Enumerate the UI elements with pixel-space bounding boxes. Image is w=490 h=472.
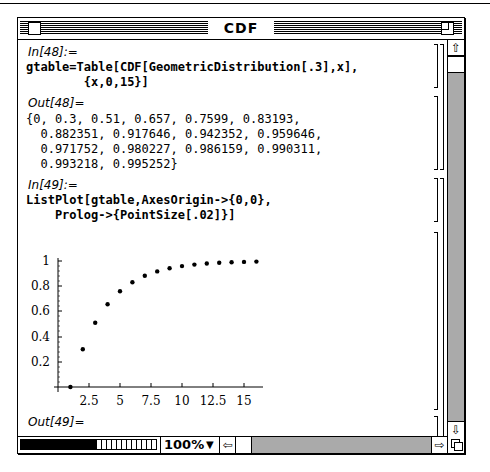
data-point	[93, 321, 97, 325]
input-label-48: In[48]:=	[28, 45, 78, 59]
y-tick-label: 0.8	[31, 279, 50, 293]
vertical-scroll-track[interactable]	[448, 56, 464, 421]
zoom-level[interactable]: 100%	[160, 437, 204, 453]
input-cell-48-line1[interactable]: gtable=Table[CDF[GeometricDistribution[.…	[26, 60, 358, 75]
output-cell-48-line4: 0.993218, 0.995252}	[26, 157, 178, 172]
input-cell-49-line2[interactable]: Prolog->{PointSize[.02]}]	[26, 208, 236, 223]
horizontal-scroll-track[interactable]	[252, 437, 431, 453]
magnification-fill	[21, 440, 96, 449]
data-point	[242, 260, 246, 264]
data-point	[180, 264, 184, 268]
data-point	[167, 266, 171, 270]
group-bracket-49[interactable]	[440, 178, 444, 437]
y-tick-label: 0.6	[31, 304, 50, 318]
magnification-slider[interactable]	[20, 439, 157, 450]
data-point	[68, 385, 72, 389]
data-point	[254, 259, 258, 263]
output-cell-48-line1: {0, 0.3, 0.51, 0.657, 0.7599, 0.83193,	[26, 112, 301, 127]
x-tick-label: 5	[116, 394, 124, 408]
data-points	[68, 259, 258, 389]
cell-bracket-graphics[interactable]	[434, 232, 438, 410]
scroll-right-arrow-icon[interactable]: ⇨	[431, 437, 447, 453]
cell-bracket-in48[interactable]	[434, 44, 438, 88]
output-cell-48-line3: 0.971752, 0.980227, 0.986159, 0.990311,	[26, 142, 322, 157]
input-cell-49-line1[interactable]: ListPlot[gtable,AxesOrigin->{0,0},	[26, 193, 272, 208]
status-bar: 100% ▼ ⇦ ⇨	[18, 436, 464, 453]
title-bar[interactable]: CDF	[18, 18, 464, 40]
x-tick-label: 7.5	[141, 394, 160, 408]
input-cell-48-line2[interactable]: {x,0,15}]	[26, 75, 149, 90]
output-label-49: Out[49]=	[28, 415, 84, 429]
vertical-scrollbar[interactable]: ⇧ ⇩	[447, 40, 464, 437]
window-title: CDF	[218, 19, 264, 37]
data-point	[118, 289, 122, 293]
title-stripes-left	[20, 21, 208, 34]
notebook-content[interactable]: In[48]:= gtable=Table[CDF[GeometricDistr…	[18, 40, 447, 437]
data-point	[192, 262, 196, 266]
close-box-icon[interactable]	[28, 22, 41, 35]
zoom-dropdown-icon[interactable]: ▼	[206, 437, 214, 453]
data-point	[155, 269, 159, 273]
data-point	[229, 260, 233, 264]
output-label-48: Out[48]=	[28, 96, 84, 110]
horizontal-scroll-thumb[interactable]	[236, 437, 252, 453]
title-stripes-right	[274, 21, 462, 34]
screen-top-rule	[0, 3, 490, 4]
data-point	[130, 280, 134, 284]
cell-bracket-out49[interactable]	[434, 416, 438, 437]
x-tick-label: 10	[174, 394, 189, 408]
input-label-49: In[49]:=	[28, 178, 78, 192]
data-point	[143, 274, 147, 278]
zoom-box-icon[interactable]	[441, 22, 454, 35]
horizontal-scrollbar[interactable]: ⇦ ⇨	[219, 437, 447, 453]
cell-bracket-out48[interactable]	[434, 96, 438, 170]
scroll-down-arrow-icon[interactable]: ⇩	[448, 421, 464, 437]
resize-grow-icon[interactable]	[447, 436, 464, 453]
data-point	[105, 302, 109, 306]
y-tick-label: 1	[42, 254, 50, 268]
data-point	[205, 261, 209, 265]
scroll-left-arrow-icon[interactable]: ⇦	[220, 437, 236, 453]
x-tick-label: 15	[236, 394, 251, 408]
y-tick-label: 0.2	[31, 355, 50, 369]
x-tick-label: 2.5	[79, 394, 98, 408]
x-ticks	[89, 383, 244, 387]
output-cell-48-line2: 0.882351, 0.917646, 0.942352, 0.959646,	[26, 127, 322, 142]
group-bracket-48[interactable]	[440, 44, 444, 170]
vertical-scroll-thumb[interactable]	[448, 56, 464, 73]
x-tick-label: 12.5	[200, 394, 227, 408]
list-plot[interactable]: 1 0.8 0.6 0.4 0.2 2.5 5 7.5 10 12.5 15	[18, 230, 318, 420]
scroll-up-arrow-icon[interactable]: ⇧	[448, 40, 464, 56]
y-tick-label: 0.4	[31, 330, 50, 344]
cell-bracket-in49[interactable]	[434, 178, 438, 222]
data-point	[217, 261, 221, 265]
notebook-window: CDF In[48]:= gtable=Table[CDF[GeometricD…	[17, 17, 465, 454]
data-point	[81, 347, 85, 351]
